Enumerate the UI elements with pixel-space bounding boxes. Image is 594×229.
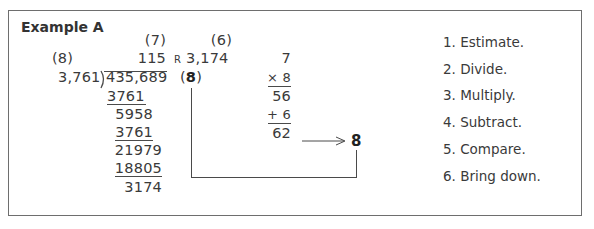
- work-row: 5958: [110, 105, 153, 123]
- remainder-label: R: [174, 54, 181, 65]
- step-bring-down: 6. Bring down.: [443, 167, 541, 185]
- check-row: + 6: [256, 105, 291, 124]
- step-divide: 2. Divide.: [443, 60, 507, 78]
- connector-bottom: [191, 177, 357, 178]
- step-estimate: 1. Estimate.: [443, 33, 524, 51]
- work-row: 18805: [110, 159, 162, 177]
- work-row: 3761: [110, 123, 153, 141]
- dividend: 435,689: [106, 68, 167, 86]
- check-row: × 8: [256, 68, 291, 87]
- remainder-value: 3,174: [186, 50, 229, 66]
- quotient: 115: [126, 49, 166, 67]
- quotient-estimate: (7): [130, 31, 166, 49]
- arrow-right-icon: [300, 135, 348, 147]
- step-subtract: 4. Subtract.: [443, 113, 522, 131]
- work-row: 21979: [110, 141, 162, 159]
- check-row: 7: [256, 49, 291, 67]
- check-result: 8: [351, 132, 362, 150]
- step-compare: 5. Compare.: [443, 140, 526, 158]
- connector-left: [191, 88, 192, 178]
- connector-right: [356, 150, 357, 178]
- remainder-estimate: (6): [196, 31, 232, 49]
- work-row: 3174: [110, 178, 162, 196]
- example-title: Example A: [21, 19, 104, 35]
- divisor: 3,761: [58, 68, 100, 86]
- check-digit-estimate: (8): [180, 68, 202, 86]
- work-row: 3761: [107, 87, 146, 105]
- divisor-estimate: (8): [52, 49, 73, 67]
- remainder: R 3,174: [174, 49, 228, 69]
- step-multiply: 3. Multiply.: [443, 86, 516, 104]
- check-row: 62: [256, 124, 291, 142]
- check-row: 56: [256, 87, 291, 105]
